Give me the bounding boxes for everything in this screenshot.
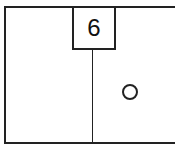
circle-icon [122, 84, 138, 100]
center-divider [92, 50, 93, 144]
number-label-box: 6 [72, 6, 116, 50]
number-label: 6 [87, 14, 100, 42]
